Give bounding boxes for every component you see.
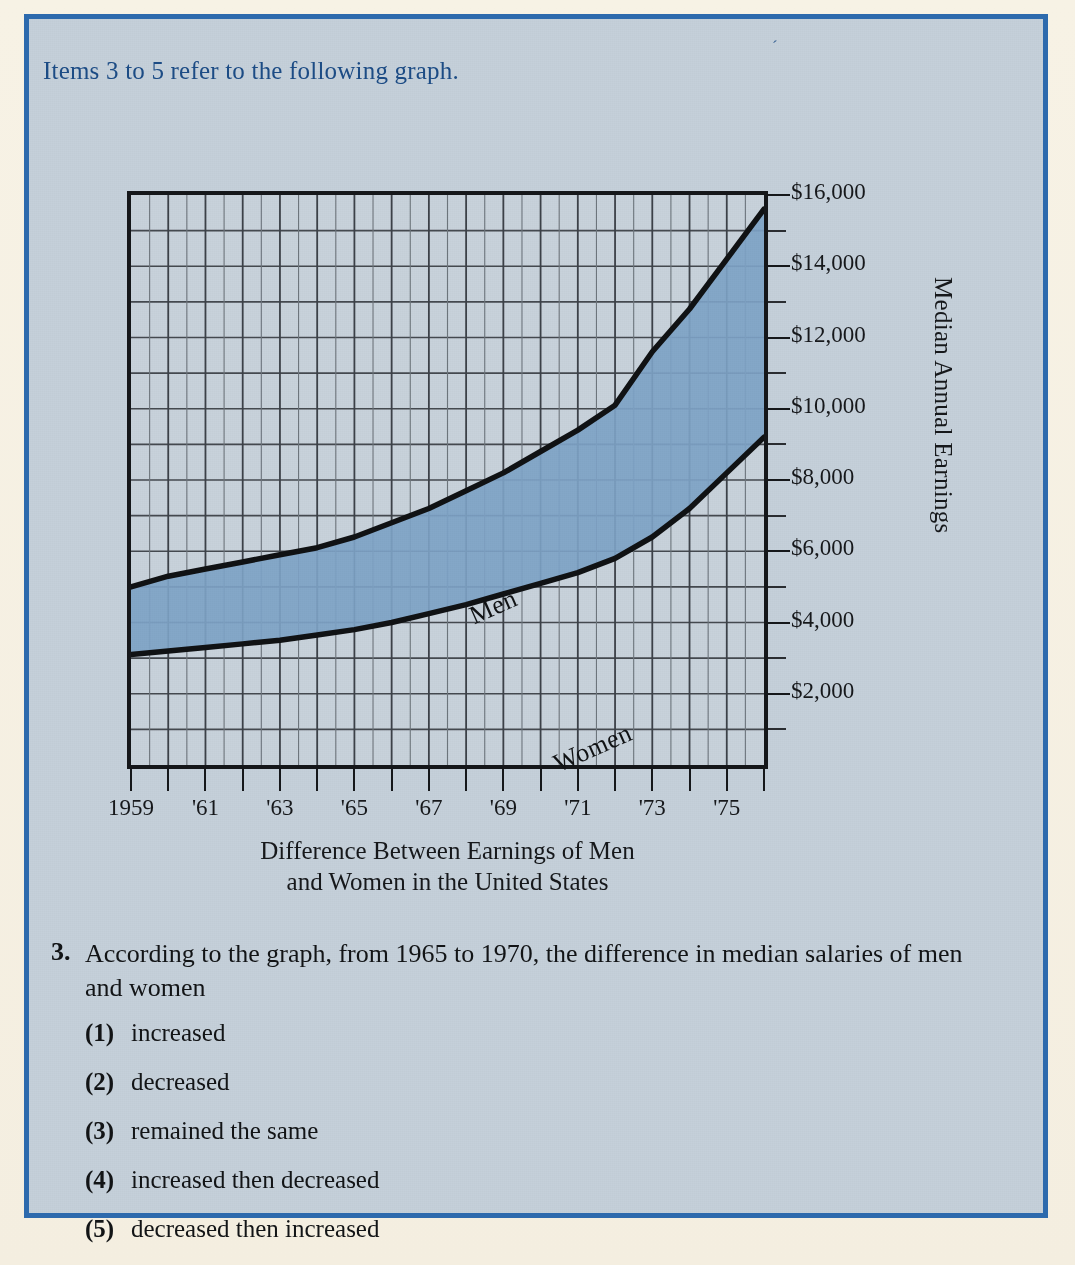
- chart-plot-area: [127, 191, 768, 769]
- x-tick-label: '75: [713, 795, 740, 821]
- question-stem: According to the graph, from 1965 to 197…: [85, 937, 985, 1005]
- x-tick-mark: [391, 769, 393, 791]
- stray-ink-mark: ´: [772, 41, 780, 67]
- answer-choice-number: (3): [85, 1117, 131, 1145]
- y-tick-major: [768, 622, 790, 624]
- y-tick-major: [768, 265, 790, 267]
- x-tick-label: '63: [266, 795, 293, 821]
- x-tick-mark: [763, 769, 765, 791]
- y-tick-major: [768, 479, 790, 481]
- answer-choice[interactable]: (5)decreased then increased: [85, 1215, 1031, 1243]
- y-tick-label: $16,000: [791, 179, 866, 205]
- answer-choice-text: remained the same: [131, 1117, 318, 1145]
- x-tick-mark: [353, 769, 355, 791]
- x-tick-mark: [316, 769, 318, 791]
- x-axis-title-line2: and Women in the United States: [127, 866, 768, 897]
- y-tick-minor: [768, 301, 786, 303]
- exercise-panel: Items 3 to 5 refer to the following grap…: [24, 14, 1048, 1218]
- y-tick-label: $14,000: [791, 250, 866, 276]
- y-tick-label: $4,000: [791, 607, 854, 633]
- x-tick-mark: [130, 769, 132, 791]
- x-tick-mark: [242, 769, 244, 791]
- answer-choice[interactable]: (1)increased: [85, 1019, 1031, 1047]
- answer-choice-number: (4): [85, 1166, 131, 1194]
- x-axis-title-line1: Difference Between Earnings of Men: [127, 835, 768, 866]
- y-tick-major: [768, 550, 790, 552]
- x-tick-mark: [651, 769, 653, 791]
- y-tick-minor: [768, 443, 786, 445]
- x-tick-mark: [279, 769, 281, 791]
- x-tick-mark: [689, 769, 691, 791]
- x-tick-mark: [614, 769, 616, 791]
- x-tick-mark: [577, 769, 579, 791]
- x-tick-mark: [502, 769, 504, 791]
- x-tick-label: '61: [192, 795, 219, 821]
- answer-choice[interactable]: (3)remained the same: [85, 1117, 1031, 1145]
- x-axis-title: Difference Between Earnings of Men and W…: [127, 835, 768, 897]
- y-tick-major: [768, 337, 790, 339]
- answer-choice-text: increased then decreased: [131, 1166, 379, 1194]
- items-header: Items 3 to 5 refer to the following grap…: [43, 57, 459, 85]
- y-tick-minor: [768, 657, 786, 659]
- y-tick-minor: [768, 230, 786, 232]
- y-tick-minor: [768, 728, 786, 730]
- y-tick-label: $6,000: [791, 535, 854, 561]
- x-tick-mark: [428, 769, 430, 791]
- answer-choice[interactable]: (2)decreased: [85, 1068, 1031, 1096]
- question-number: 3.: [51, 937, 85, 967]
- answer-choice-number: (5): [85, 1215, 131, 1243]
- x-tick-mark: [726, 769, 728, 791]
- y-tick-major: [768, 408, 790, 410]
- y-tick-major: [768, 693, 790, 695]
- answer-choice-number: (2): [85, 1068, 131, 1096]
- x-tick-label: '65: [341, 795, 368, 821]
- y-tick-label: $12,000: [791, 322, 866, 348]
- x-tick-label: '69: [490, 795, 517, 821]
- answer-choice-text: increased: [131, 1019, 225, 1047]
- question-block: 3. According to the graph, from 1965 to …: [51, 937, 1031, 1264]
- answer-choice[interactable]: (4)increased then decreased: [85, 1166, 1031, 1194]
- y-tick-major: [768, 194, 790, 196]
- y-tick-minor: [768, 515, 786, 517]
- question-stem-row: 3. According to the graph, from 1965 to …: [51, 937, 1031, 1005]
- chart-svg: [131, 195, 764, 765]
- y-tick-minor: [768, 372, 786, 374]
- x-tick-label: '73: [639, 795, 666, 821]
- page-background: Items 3 to 5 refer to the following grap…: [0, 0, 1075, 1265]
- x-tick-mark: [465, 769, 467, 791]
- answer-choice-text: decreased: [131, 1068, 230, 1096]
- y-tick-label: $2,000: [791, 678, 854, 704]
- x-tick-label: 1959: [108, 795, 154, 821]
- x-tick-mark: [540, 769, 542, 791]
- x-tick-label: '67: [415, 795, 442, 821]
- chart-figure: $16,000$14,000$12,000$10,000$8,000$6,000…: [29, 169, 1053, 899]
- y-tick-minor: [768, 586, 786, 588]
- y-tick-label: $10,000: [791, 393, 866, 419]
- x-tick-label: '71: [564, 795, 591, 821]
- answer-choice-number: (1): [85, 1019, 131, 1047]
- answer-choice-text: decreased then increased: [131, 1215, 379, 1243]
- answer-choices: (1)increased(2)decreased(3)remained the …: [85, 1019, 1031, 1243]
- x-tick-mark: [167, 769, 169, 791]
- y-axis-title: Median Annual Earnings: [929, 277, 957, 311]
- x-tick-mark: [204, 769, 206, 791]
- y-tick-label: $8,000: [791, 464, 854, 490]
